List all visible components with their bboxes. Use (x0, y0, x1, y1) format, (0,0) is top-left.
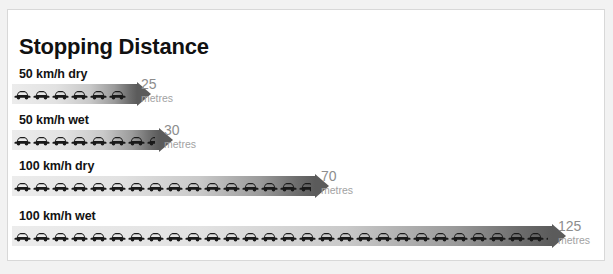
car-icon (223, 181, 240, 192)
car-icon (166, 231, 183, 242)
bar-value-unit: metres (558, 235, 590, 246)
car-icon (14, 231, 31, 242)
car-icon (109, 181, 126, 192)
car-icon (33, 181, 50, 192)
car-icon (356, 231, 373, 242)
car-icon (33, 231, 50, 242)
car-icon (109, 89, 126, 100)
car-icon (71, 135, 88, 146)
bar-value: 125 metres (558, 219, 590, 246)
car-icon-group (14, 226, 548, 246)
car-icon (147, 231, 164, 242)
car-icon (204, 181, 221, 192)
bar-value: 25 metres (141, 77, 173, 104)
bar-value-number: 30 (164, 123, 196, 138)
car-icon (261, 181, 278, 192)
car-icon (52, 181, 69, 192)
car-icon (413, 231, 430, 242)
car-icon (109, 231, 126, 242)
bar-row-label: 50 km/h dry (19, 67, 87, 81)
car-icon-group (14, 130, 155, 150)
infographic-card: Stopping Distance 50 km/h dry 25 metres … (7, 9, 605, 261)
car-icon (546, 231, 548, 242)
car-icon (128, 135, 145, 146)
car-icon (508, 231, 525, 242)
car-icon (128, 231, 145, 242)
bar-value-unit: metres (141, 93, 173, 104)
car-icon (52, 135, 69, 146)
car-icon (337, 231, 354, 242)
car-icon (489, 231, 506, 242)
car-icon (14, 135, 31, 146)
bar-value-number: 70 (321, 169, 353, 184)
car-icon (14, 181, 31, 192)
car-icon (33, 135, 50, 146)
car-icon-group (14, 176, 311, 196)
car-icon (394, 231, 411, 242)
car-icon (90, 135, 107, 146)
car-icon (147, 181, 164, 192)
car-icon (451, 231, 468, 242)
car-icon (128, 181, 145, 192)
bar-value-unit: metres (164, 139, 196, 150)
car-icon-group (14, 84, 133, 104)
bar-value-number: 125 (558, 219, 590, 234)
car-icon (204, 231, 221, 242)
car-icon (71, 89, 88, 100)
car-icon (185, 181, 202, 192)
car-icon (52, 89, 69, 100)
car-icon (52, 231, 69, 242)
car-icon (242, 181, 259, 192)
car-icon (14, 89, 31, 100)
bar-value: 30 metres (164, 123, 196, 150)
car-icon (299, 181, 311, 192)
car-icon (375, 231, 392, 242)
bar-value: 70 metres (321, 169, 353, 196)
car-icon (71, 181, 88, 192)
car-icon (261, 231, 278, 242)
bar-row-label: 100 km/h dry (19, 159, 94, 173)
car-icon (299, 231, 316, 242)
car-icon (242, 231, 259, 242)
bar-row-label: 100 km/h wet (19, 209, 96, 223)
car-icon (33, 89, 50, 100)
car-icon (166, 181, 183, 192)
page-title: Stopping Distance (19, 34, 209, 60)
car-icon (280, 181, 297, 192)
car-icon (90, 89, 107, 100)
car-icon (109, 135, 126, 146)
car-icon (527, 231, 544, 242)
car-icon (432, 231, 449, 242)
car-icon (318, 231, 335, 242)
car-icon (90, 181, 107, 192)
car-icon (147, 135, 155, 146)
car-icon (185, 231, 202, 242)
car-icon (470, 231, 487, 242)
car-icon (280, 231, 297, 242)
car-icon (90, 231, 107, 242)
car-icon (223, 231, 240, 242)
car-icon (71, 231, 88, 242)
bar-row-label: 50 km/h wet (19, 113, 89, 127)
bar-value-number: 25 (141, 77, 173, 92)
bar-value-unit: metres (321, 185, 353, 196)
